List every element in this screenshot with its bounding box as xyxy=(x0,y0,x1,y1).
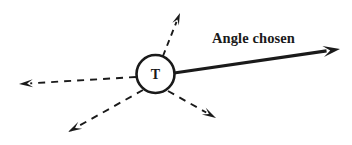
candidate-arrow-down-left-head xyxy=(68,122,82,132)
candidate-arrow-down-left xyxy=(68,90,143,132)
candidate-arrow-left-shaft xyxy=(30,77,136,83)
node-t-label: T xyxy=(151,67,161,82)
candidate-arrow-down-right-shaft xyxy=(168,91,206,113)
chosen-angle-arrow-shaft xyxy=(174,51,327,73)
candidate-arrow-down-right-head xyxy=(202,108,216,118)
diagram-canvas: T Angle chosen xyxy=(0,0,352,145)
chosen-vector-group xyxy=(174,46,340,73)
figure-container: T Angle chosen xyxy=(0,0,352,145)
candidate-arrow-up-right-shaft xyxy=(163,22,176,56)
chosen-angle-arrow xyxy=(174,46,340,73)
candidate-arrow-up-right xyxy=(163,13,180,56)
candidate-arrow-down-left-shaft xyxy=(78,90,143,127)
candidate-arrow-left xyxy=(19,77,136,87)
candidate-arrow-down-right xyxy=(168,91,216,118)
angle-chosen-annotation: Angle chosen xyxy=(212,30,295,46)
